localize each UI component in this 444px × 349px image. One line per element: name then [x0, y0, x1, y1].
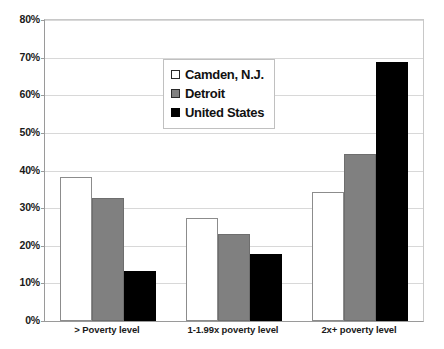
- legend-item: United States: [171, 103, 264, 122]
- x-axis-labels: > Poverty level1-1.99x poverty level2x+ …: [44, 324, 423, 344]
- bar: [250, 254, 282, 321]
- x-axis-category-label: 1-1.99x poverty level: [170, 324, 296, 335]
- bar-chart: 0%10%20%30%40%50%60%70%80% > Poverty lev…: [0, 0, 444, 349]
- y-axis-tick-mark: [41, 321, 45, 322]
- y-axis-tick-label: 80%: [4, 14, 40, 25]
- bar-group: [45, 20, 171, 321]
- bar: [312, 192, 344, 321]
- bar: [376, 62, 408, 321]
- y-axis-tick-label: 60%: [4, 89, 40, 100]
- legend-item-label: Camden, N.J.: [185, 68, 264, 81]
- y-axis-tick-label: 70%: [4, 51, 40, 62]
- y-axis-tick-label: 0%: [4, 315, 40, 326]
- bar: [186, 218, 218, 321]
- bar: [92, 198, 124, 321]
- y-axis-tick-label: 30%: [4, 202, 40, 213]
- bar: [60, 177, 92, 321]
- bar: [124, 271, 156, 321]
- y-axis-tick-label: 20%: [4, 240, 40, 251]
- bar: [218, 234, 250, 321]
- legend-item: Camden, N.J.: [171, 65, 264, 84]
- y-axis-labels: 0%10%20%30%40%50%60%70%80%: [0, 19, 40, 320]
- gray-square-marker-icon: [171, 89, 180, 98]
- legend-item: Detroit: [171, 84, 264, 103]
- legend-item-label: United States: [185, 106, 264, 119]
- bar-group: [297, 20, 423, 321]
- legend-item-label: Detroit: [185, 87, 225, 100]
- y-axis-tick-label: 40%: [4, 164, 40, 175]
- x-axis-category-label: > Poverty level: [44, 324, 170, 335]
- white-square-marker-icon: [171, 70, 180, 79]
- y-axis-tick-label: 10%: [4, 277, 40, 288]
- bar: [344, 154, 376, 321]
- x-axis-category-label: 2x+ poverty level: [296, 324, 422, 335]
- black-square-marker-icon: [171, 108, 180, 117]
- chart-legend: Camden, N.J.DetroitUnited States: [163, 59, 275, 129]
- y-axis-tick-label: 50%: [4, 127, 40, 138]
